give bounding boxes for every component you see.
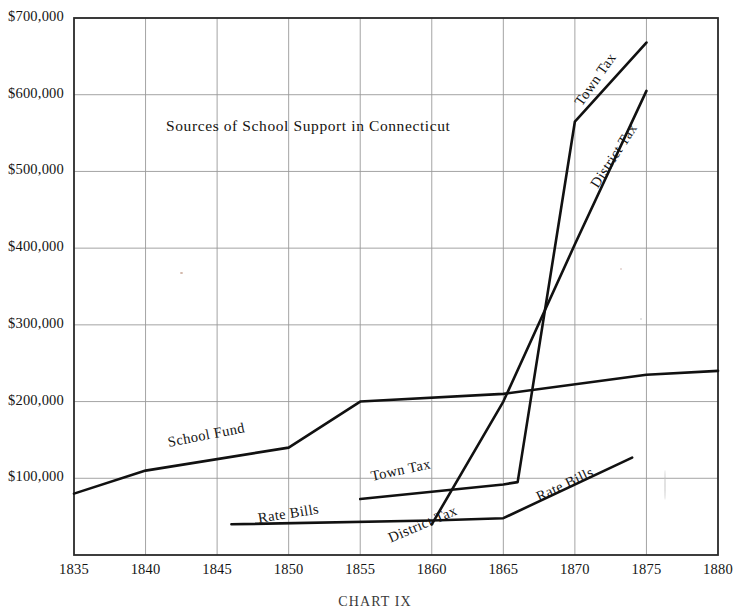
x-axis-tick-label: 1835 — [34, 561, 114, 578]
x-axis-tick-label: 1880 — [678, 561, 750, 578]
y-axis-tick-label: $600,000 — [0, 85, 64, 102]
x-axis-tick-label: 1875 — [606, 561, 686, 578]
figure-caption: CHART IX — [295, 594, 455, 609]
plot-area — [0, 0, 750, 609]
x-axis-tick-label: 1850 — [249, 561, 329, 578]
y-axis-tick-label: $700,000 — [0, 8, 64, 25]
x-axis-tick-label: 1845 — [177, 561, 257, 578]
y-axis-tick-label: $400,000 — [0, 238, 64, 255]
scan-artifact — [640, 318, 642, 320]
scan-artifact — [620, 268, 622, 270]
series-lines — [74, 43, 718, 525]
y-axis-tick-label: $500,000 — [0, 161, 64, 178]
x-axis-tick-label: 1870 — [535, 561, 615, 578]
scan-artifact — [180, 272, 183, 274]
y-axis-tick-label: $300,000 — [0, 315, 64, 332]
y-axis-tick-label: $200,000 — [0, 392, 64, 409]
x-axis-tick-label: 1855 — [320, 561, 400, 578]
scan-artifact — [664, 470, 666, 500]
x-axis-tick-label: 1865 — [463, 561, 543, 578]
x-axis-tick-label: 1840 — [106, 561, 186, 578]
x-axis-tick-label: 1860 — [392, 561, 472, 578]
chart-figure: $100,000$200,000$300,000$400,000$500,000… — [0, 0, 750, 609]
y-axis-tick-label: $100,000 — [0, 468, 64, 485]
chart-title: Sources of School Support in Connecticut — [166, 117, 450, 135]
